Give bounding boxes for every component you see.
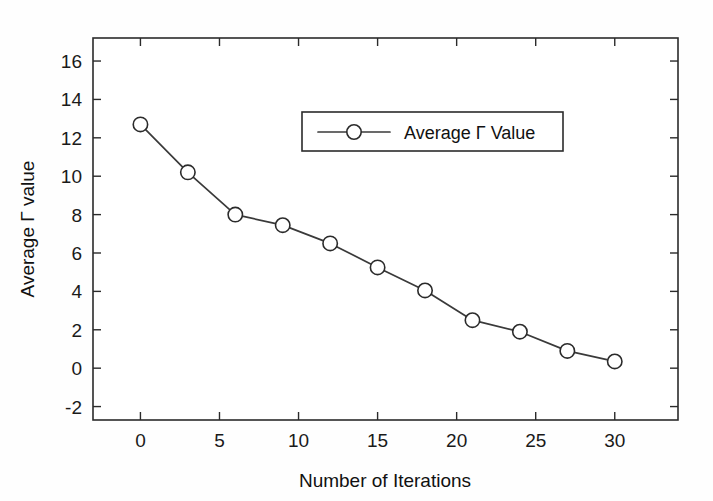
y-tick-label: 4 <box>71 281 82 302</box>
data-point-marker[interactable] <box>465 313 479 327</box>
x-tick-label: 5 <box>214 430 225 451</box>
figure-canvas: 051015202530 -20246810121416 Average Γ V… <box>0 0 713 501</box>
x-tick-label: 25 <box>525 430 546 451</box>
y-tick-label: 2 <box>71 320 82 341</box>
x-axis-tick-labels: 051015202530 <box>135 430 625 451</box>
legend[interactable]: Average Γ Value <box>302 112 563 151</box>
x-tick-label: 20 <box>446 430 467 451</box>
y-tick-label: 12 <box>61 128 82 149</box>
y-tick-label: -2 <box>65 397 82 418</box>
data-point-marker[interactable] <box>133 117 147 131</box>
x-tick-label: 30 <box>604 430 625 451</box>
y-axis-tick-labels: -20246810121416 <box>61 51 83 418</box>
legend-label: Average Γ Value <box>404 123 535 143</box>
data-point-marker[interactable] <box>276 218 290 232</box>
y-tick-label: 10 <box>61 166 82 187</box>
data-point-marker[interactable] <box>323 236 337 250</box>
y-tick-label: 16 <box>61 51 82 72</box>
open-circle-marker-icon <box>347 125 361 139</box>
data-point-marker[interactable] <box>608 354 622 368</box>
data-point-marker[interactable] <box>181 165 195 179</box>
y-tick-label: 6 <box>71 243 82 264</box>
y-axis-title: Average Γ value <box>17 161 38 298</box>
y-tick-label: 14 <box>61 89 83 110</box>
data-point-marker[interactable] <box>370 260 384 274</box>
x-tick-label: 0 <box>135 430 146 451</box>
y-tick-label: 8 <box>71 205 82 226</box>
data-point-marker[interactable] <box>560 344 574 358</box>
data-point-marker[interactable] <box>513 324 527 338</box>
x-tick-label: 15 <box>367 430 388 451</box>
plot-frame <box>93 38 678 420</box>
chart-plot[interactable]: 051015202530 -20246810121416 Average Γ V… <box>0 0 713 501</box>
data-point-marker[interactable] <box>418 283 432 297</box>
y-tick-label: 0 <box>71 358 82 379</box>
x-tick-label: 10 <box>288 430 309 451</box>
x-axis-title: Number of Iterations <box>299 470 471 491</box>
data-point-marker[interactable] <box>228 207 242 221</box>
